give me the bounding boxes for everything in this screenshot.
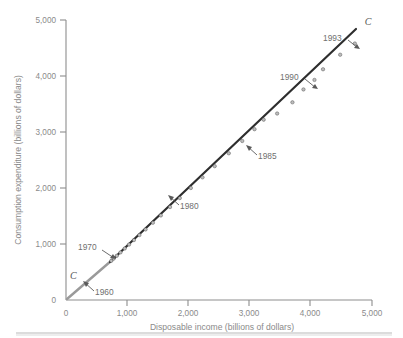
data-point (213, 164, 216, 167)
data-point (201, 176, 204, 179)
y-tick-label-2000: 2,000 (36, 184, 57, 193)
data-point (253, 128, 256, 131)
x-tick-label-2000: 2,000 (178, 309, 199, 318)
annotation-label-1993: 1993 (323, 33, 342, 43)
data-point (189, 186, 192, 189)
data-point (132, 238, 135, 241)
annotation-label-1960: 1960 (95, 287, 114, 297)
data-point (127, 243, 130, 246)
y-axis-title: Consumption expenditure (billions of dol… (13, 75, 23, 245)
data-point (262, 118, 265, 121)
x-tick-label-1000: 1,000 (117, 309, 138, 318)
data-point (159, 214, 162, 217)
data-point (144, 228, 147, 231)
consumption-function-chart: 5,000 4,000 3,000 2,000 1,000 0 Consumpt… (0, 0, 403, 338)
x-tick-label-3000: 3,000 (239, 309, 260, 318)
data-point (291, 101, 294, 104)
y-tick-label-5000: 5,000 (36, 16, 57, 25)
data-point (313, 78, 316, 81)
data-point (178, 196, 181, 199)
y-tick-label-3000: 3,000 (36, 128, 57, 137)
y-tick-label-4000: 4,000 (36, 72, 57, 81)
data-point (275, 112, 278, 115)
x-tick-label-4000: 4,000 (300, 309, 321, 318)
data-point (227, 152, 230, 155)
data-point (119, 251, 122, 254)
data-point (302, 88, 305, 91)
data-point (115, 254, 118, 257)
y-tick-label-0: 0 (51, 296, 56, 305)
data-point (338, 53, 341, 56)
data-point (241, 139, 244, 142)
annotation-label-1980: 1980 (180, 201, 199, 211)
data-point (138, 233, 141, 236)
data-point (168, 205, 171, 208)
figure-container: 5,000 4,000 3,000 2,000 1,000 0 Consumpt… (0, 0, 403, 338)
x-tick-label-5000: 5,000 (362, 309, 383, 318)
x-tick-label-0: 0 (64, 309, 69, 318)
data-point (151, 221, 154, 224)
curve-label-origin: C (70, 270, 77, 281)
data-point (123, 247, 126, 250)
annotation-label-1970: 1970 (78, 242, 97, 252)
chart-background (0, 0, 403, 338)
curve-label-end: C (365, 16, 372, 27)
annotation-label-1990: 1990 (280, 72, 299, 82)
data-point (321, 68, 324, 71)
x-axis-title: Disposable income (billions of dollars) (150, 322, 294, 332)
y-tick-label-1000: 1,000 (36, 240, 57, 249)
annotation-label-1985: 1985 (258, 151, 277, 161)
